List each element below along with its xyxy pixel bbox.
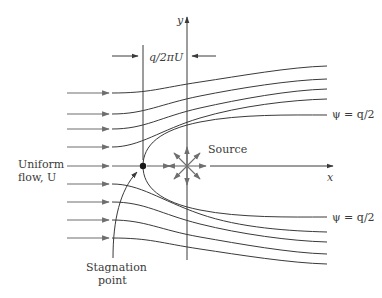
stagnation-label-line1: Stagnation xyxy=(86,261,147,274)
psi-lower-label: ψ = q/2 xyxy=(332,211,375,224)
lower-streamlines xyxy=(112,184,327,264)
uniform-flow-arrows xyxy=(67,93,109,238)
uniform-flow-label-line2: flow, U xyxy=(18,171,56,184)
x-axis-label: x xyxy=(327,171,333,184)
half-body-flow-diagram xyxy=(0,0,382,298)
psi-upper-label: ψ = q/2 xyxy=(332,108,375,121)
source-icon xyxy=(168,147,206,185)
source-label: Source xyxy=(208,143,247,156)
uniform-flow-label-line1: Uniform xyxy=(18,158,64,171)
stagnation-label-line2: point xyxy=(98,274,127,287)
y-axis-label: y xyxy=(177,14,183,27)
stagnation-point-dot xyxy=(140,163,146,169)
dimension-label: q/2πU xyxy=(149,51,183,64)
upper-streamlines xyxy=(112,66,327,147)
